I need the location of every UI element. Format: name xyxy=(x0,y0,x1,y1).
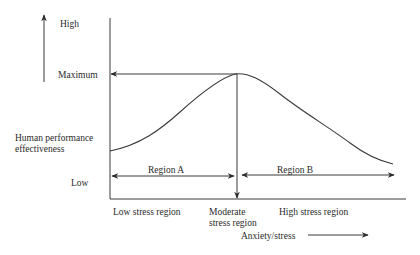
x-axis-title: Anxiety/stress xyxy=(241,231,296,241)
region-b-label: Region B xyxy=(277,165,313,175)
moderate-stress-region-line2: stress region xyxy=(209,218,257,228)
region-a-label: Region A xyxy=(148,165,184,175)
y-axis-title-line1: Human performance xyxy=(15,133,93,143)
moderate-stress-region-line1: Moderate xyxy=(209,207,245,217)
performance-curve xyxy=(110,74,393,164)
high-stress-region-label: High stress region xyxy=(279,207,348,217)
y-axis-title-line2: effectiveness xyxy=(15,144,65,154)
high-label: High xyxy=(60,19,79,29)
low-stress-region-label: Low stress region xyxy=(113,207,181,217)
low-label: Low xyxy=(71,178,89,188)
stress-performance-diagram: High Maximum Human performance effective… xyxy=(0,0,420,255)
maximum-label: Maximum xyxy=(58,70,98,80)
